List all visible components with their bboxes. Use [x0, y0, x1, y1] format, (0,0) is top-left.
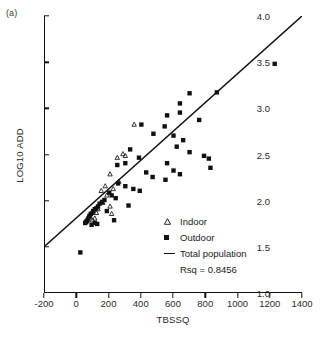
legend-item-total-population: Total population [164, 248, 247, 259]
data-point-outdoor [150, 175, 154, 179]
y-tick-mark [44, 15, 49, 16]
x-tick-mark [108, 293, 109, 298]
data-point-outdoor [128, 147, 132, 151]
data-point-outdoor [163, 178, 167, 182]
data-point-outdoor [178, 101, 182, 105]
data-point-outdoor [116, 181, 120, 185]
data-point-outdoor [78, 250, 82, 254]
data-point-outdoor [139, 122, 143, 126]
filled-square-icon [164, 232, 180, 243]
data-point-outdoor [207, 156, 211, 160]
data-point-outdoor [165, 113, 169, 117]
data-point-outdoor [208, 166, 212, 170]
data-point-indoor [115, 155, 119, 159]
data-point-outdoor [202, 154, 206, 158]
y-tick-label: 3.5 [230, 57, 270, 68]
data-point-outdoor [215, 90, 219, 94]
data-point-indoor [132, 122, 136, 126]
data-point-outdoor [137, 155, 141, 159]
chart-legend: Indoor Outdoor Total population Rsq = 0.… [164, 216, 247, 276]
data-point-indoor [109, 211, 113, 215]
legend-rsq-value: Rsq = 0.8456 [180, 264, 247, 276]
legend-label-total-population: Total population [180, 248, 247, 259]
data-point-outdoor [144, 170, 148, 174]
data-point-indoor [103, 184, 107, 188]
data-point-indoor [99, 188, 103, 192]
data-point-outdoor [181, 138, 185, 142]
x-tick-mark [43, 293, 44, 298]
x-axis-title: TBSSQ [44, 314, 302, 325]
y-tick-mark [44, 154, 49, 155]
data-point-outdoor [95, 222, 99, 226]
x-tick-mark [76, 293, 77, 298]
panel-label: (a) [6, 8, 17, 18]
x-tick-label: 1400 [280, 298, 320, 309]
y-tick-label: 2.5 [230, 149, 270, 160]
x-tick-mark [205, 293, 206, 298]
regression-line [45, 16, 302, 246]
y-tick-mark [44, 200, 49, 201]
y-tick-mark [44, 246, 49, 247]
data-point-outdoor [123, 161, 127, 165]
data-point-indoor [108, 172, 112, 176]
y-tick-mark [44, 61, 49, 62]
open-triangle-icon [164, 216, 180, 227]
x-tick-mark [237, 293, 238, 298]
y-tick-label: 3.0 [230, 103, 270, 114]
legend-label-indoor: Indoor [180, 216, 207, 227]
x-tick-mark [140, 293, 141, 298]
data-point-outdoor [151, 132, 155, 136]
figure-panel-a: (a) 1.01.52.02.53.03.54.0 -2000200400600… [0, 0, 320, 345]
data-point-outdoor [273, 62, 277, 66]
data-point-outdoor [113, 196, 117, 200]
data-point-outdoor [187, 150, 191, 154]
data-point-outdoor [83, 221, 87, 225]
data-point-outdoor [115, 163, 119, 167]
data-point-indoor [108, 204, 112, 208]
data-point-outdoor [109, 193, 113, 197]
data-point-outdoor [105, 209, 109, 213]
legend-item-outdoor: Outdoor [164, 232, 247, 243]
x-tick-mark [269, 293, 270, 298]
data-point-outdoor [197, 118, 201, 122]
data-point-outdoor [171, 133, 175, 137]
y-tick-label: 4.0 [230, 11, 270, 22]
x-tick-mark [172, 293, 173, 298]
line-segment-icon [164, 248, 180, 259]
y-tick-mark [44, 108, 49, 109]
data-point-outdoor [123, 184, 127, 188]
data-point-outdoor [112, 218, 116, 222]
y-tick-label: 2.0 [230, 195, 270, 206]
data-point-outdoor [126, 203, 130, 207]
data-point-outdoor [178, 110, 182, 114]
x-tick-mark [301, 293, 302, 298]
data-point-outdoor [171, 168, 175, 172]
data-point-outdoor [165, 161, 169, 165]
data-point-outdoor [89, 223, 93, 227]
data-point-outdoor [187, 91, 191, 95]
data-point-outdoor [162, 124, 166, 128]
data-point-outdoor [131, 187, 135, 191]
y-axis-title: LOG10 ADD [14, 101, 25, 211]
legend-label-outdoor: Outdoor [180, 232, 214, 243]
data-point-outdoor [175, 144, 179, 148]
data-point-outdoor [178, 172, 182, 176]
data-point-outdoor [138, 189, 142, 193]
legend-item-indoor: Indoor [164, 216, 247, 227]
